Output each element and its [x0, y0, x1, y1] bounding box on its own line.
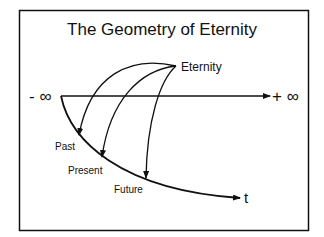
label-eternity: Eternity: [181, 61, 222, 73]
diagram-title: The Geometry of Eternity: [0, 21, 324, 38]
label-pos-infinity: + ∞: [272, 88, 299, 105]
label-neg-infinity: - ∞: [29, 88, 52, 105]
label-past: Past: [55, 142, 75, 152]
time-curve: [61, 96, 240, 198]
arrow-to-future: [146, 66, 176, 178]
arrow-to-past: [79, 63, 176, 135]
label-t: t: [244, 190, 248, 205]
label-present: Present: [68, 166, 102, 176]
label-future: Future: [114, 185, 143, 195]
frame: [20, 11, 309, 231]
